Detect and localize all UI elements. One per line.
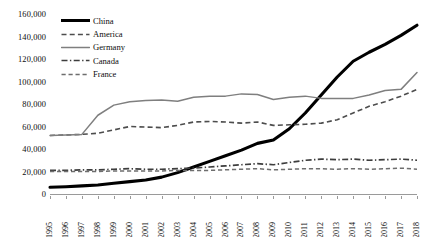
x-tick-mark xyxy=(401,196,402,199)
x-tick-mark xyxy=(82,196,83,199)
y-tick-label: 80,000 xyxy=(22,100,46,109)
x-tick-label: 2011 xyxy=(300,222,309,237)
legend-swatch-icon xyxy=(61,29,90,40)
x-tick-label: 1995 xyxy=(45,222,54,237)
legend-swatch-icon xyxy=(61,69,90,80)
x-tick-mark xyxy=(257,196,258,199)
legend-label: America xyxy=(93,29,123,39)
x-tick-label: 2000 xyxy=(125,222,134,237)
x-tick-label: 2017 xyxy=(396,222,405,237)
x-tick-label: 2016 xyxy=(380,222,389,237)
series-line-france xyxy=(50,168,417,171)
x-tick-mark xyxy=(273,196,274,199)
x-tick-mark xyxy=(289,196,290,199)
legend-item-germany[interactable]: Germany xyxy=(61,41,151,54)
legend-label: China xyxy=(93,16,114,26)
chart-legend: ChinaAmericaGermanyCanadaFrance xyxy=(61,14,151,81)
x-tick-label: 2002 xyxy=(157,222,166,237)
y-tick-label: 20,000 xyxy=(22,167,46,176)
x-tick-label: 2013 xyxy=(332,222,341,237)
x-tick-label: 2008 xyxy=(252,222,261,237)
x-tick-mark xyxy=(98,196,99,199)
legend-swatch-icon xyxy=(61,55,90,66)
x-tick-mark xyxy=(114,196,115,199)
y-tick-label: 60,000 xyxy=(22,122,46,131)
x-tick-mark xyxy=(369,196,370,199)
x-tick-mark xyxy=(417,196,418,199)
x-tick-mark xyxy=(385,196,386,199)
legend-label: France xyxy=(93,69,116,79)
x-tick-label: 2012 xyxy=(316,222,325,237)
x-tick-label: 2018 xyxy=(412,222,421,237)
y-tick-label: 0 xyxy=(42,190,46,199)
series-line-germany xyxy=(50,73,417,136)
x-tick-mark xyxy=(353,196,354,199)
x-tick-mark xyxy=(178,196,179,199)
x-tick-label: 2007 xyxy=(236,222,245,237)
legend-label: Canada xyxy=(93,56,119,66)
y-axis: 020,00040,00060,00080,000100,000120,0001… xyxy=(0,0,48,237)
x-tick-mark xyxy=(226,196,227,199)
legend-item-france[interactable]: France xyxy=(61,68,151,81)
x-tick-mark xyxy=(210,196,211,199)
line-chart: 020,00040,00060,00080,000100,000120,0001… xyxy=(0,0,422,237)
x-tick-label: 2005 xyxy=(205,222,214,237)
x-tick-label: 1997 xyxy=(77,222,86,237)
x-tick-mark xyxy=(50,196,51,199)
x-tick-mark xyxy=(162,196,163,199)
y-tick-label: 40,000 xyxy=(22,145,46,154)
x-tick-label: 1998 xyxy=(93,222,102,237)
y-tick-label: 100,000 xyxy=(18,77,46,86)
y-tick-label: 140,000 xyxy=(18,32,46,41)
x-tick-mark xyxy=(194,196,195,199)
x-tick-label: 2004 xyxy=(189,222,198,237)
x-tick-label: 1999 xyxy=(109,222,118,237)
x-axis: 1995199619971998199920002001200220032004… xyxy=(50,196,417,237)
legend-label: Germany xyxy=(93,42,125,52)
legend-swatch-icon xyxy=(61,42,90,53)
x-axis-line xyxy=(50,194,417,195)
x-tick-label: 2010 xyxy=(284,222,293,237)
x-tick-label: 2001 xyxy=(141,222,150,237)
x-tick-label: 2014 xyxy=(348,222,357,237)
x-tick-mark xyxy=(321,196,322,199)
x-tick-mark xyxy=(337,196,338,199)
y-tick-label: 120,000 xyxy=(18,55,46,64)
x-tick-mark xyxy=(241,196,242,199)
x-tick-mark xyxy=(146,196,147,199)
x-tick-mark xyxy=(130,196,131,199)
x-tick-label: 2003 xyxy=(173,222,182,237)
x-tick-label: 2006 xyxy=(221,222,230,237)
legend-swatch-icon xyxy=(61,15,90,26)
x-tick-mark xyxy=(305,196,306,199)
legend-item-china[interactable]: China xyxy=(61,14,151,27)
x-tick-label: 1996 xyxy=(61,222,70,237)
legend-item-canada[interactable]: Canada xyxy=(61,54,151,67)
x-tick-label: 2015 xyxy=(364,222,373,237)
x-tick-label: 2009 xyxy=(268,222,277,237)
x-tick-mark xyxy=(66,196,67,199)
legend-item-america[interactable]: America xyxy=(61,27,151,40)
y-tick-label: 160,000 xyxy=(18,10,46,19)
